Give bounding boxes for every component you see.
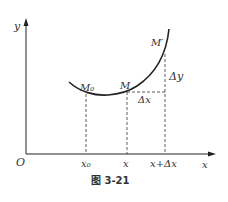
- dx-label: Δx: [137, 94, 151, 105]
- origin-label: O: [16, 156, 25, 169]
- point-m0-label: M₀: [79, 82, 94, 93]
- point-m-label: M: [119, 80, 131, 91]
- y-axis-arrow-icon: [24, 18, 29, 26]
- tick-x0: x₀: [81, 158, 91, 169]
- tick-x: x: [123, 158, 129, 169]
- y-axis-label: y: [13, 20, 21, 33]
- derivative-diagram: y O x x₀ x x+Δx M₀ M M′ Δx Δy 图 3-21: [0, 0, 228, 202]
- tick-x-plus-dx: x+Δx: [150, 158, 177, 169]
- point-m-prime-label: M′: [150, 37, 164, 48]
- x-axis-arrow-icon: [208, 152, 216, 157]
- dy-label: Δy: [168, 70, 184, 83]
- figure-caption: 图 3-21: [91, 175, 130, 186]
- x-axis-label: x: [202, 159, 208, 170]
